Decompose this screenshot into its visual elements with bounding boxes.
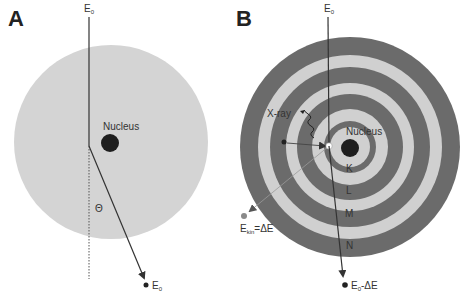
nucleus-icon bbox=[101, 134, 119, 152]
scattered-energy-label: E0 bbox=[152, 280, 163, 292]
outer-shell-electron-dot bbox=[282, 140, 287, 145]
incident-energy-label: E0 bbox=[324, 3, 335, 15]
shell-label-n: N bbox=[346, 240, 353, 251]
nucleus-label: Nucleus bbox=[346, 126, 382, 137]
incident-energy-label: E0 bbox=[84, 3, 95, 15]
shell-label-k: K bbox=[346, 163, 353, 174]
nucleus-label: Nucleus bbox=[103, 121, 139, 132]
scattered-energy-label: E0-ΔE bbox=[351, 280, 378, 292]
scattered-electron-dot bbox=[342, 282, 348, 288]
panel-letter-a: A bbox=[8, 6, 24, 31]
panel-letter-b: B bbox=[236, 6, 252, 31]
nucleus-icon bbox=[341, 139, 359, 157]
shell-label-m: M bbox=[345, 208, 353, 219]
shell-label-l: L bbox=[346, 185, 352, 196]
ejected-electron-dot bbox=[241, 213, 247, 219]
xray-label: X-ray bbox=[267, 108, 291, 119]
panel-b-inelastic-scattering: B Nucleus K L M N E0 Ekin=ΔE X-ray bbox=[236, 3, 460, 292]
electron-scattering-diagram: A E0 Nucleus Θ E0 B Nucleus K L M N bbox=[0, 0, 467, 293]
ejected-energy-label: Ekin=ΔE bbox=[240, 223, 274, 235]
scattering-angle-label: Θ bbox=[95, 203, 103, 214]
panel-a-elastic-scattering: A E0 Nucleus Θ E0 bbox=[8, 3, 208, 292]
scattered-electron-dot bbox=[144, 283, 149, 288]
